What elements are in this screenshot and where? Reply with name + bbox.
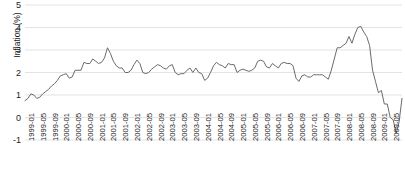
x-tick-label-text: 2000-09 xyxy=(87,113,95,141)
x-tick-label-text: 2003-05 xyxy=(181,113,189,141)
x-tick-label: 2001-05 xyxy=(110,113,118,141)
inflation-line-chart: Inflation (%) 543210-1 1999-011999-05199… xyxy=(0,0,405,190)
x-tick-label-text: 1999-09 xyxy=(52,113,60,141)
x-tick-label: 2009-01 xyxy=(381,113,389,141)
x-tick-label-text: 2005-01 xyxy=(240,113,248,141)
x-tick-label-text: 2008-09 xyxy=(370,113,378,141)
x-tick-label: 2007-01 xyxy=(311,113,319,141)
x-tick-label-text: 2006-09 xyxy=(299,113,307,141)
x-tick-label: 2004-01 xyxy=(205,113,213,141)
y-tick-label: 3 xyxy=(16,46,21,55)
x-axis-tick-labels: 1999-011999-051999-092000-012000-052000-… xyxy=(25,141,402,190)
x-tick-label: 2001-01 xyxy=(99,113,107,141)
x-tick-label-text: 2004-01 xyxy=(205,113,213,141)
x-tick-label-text: 2007-05 xyxy=(323,113,331,141)
x-tick-label: 2005-09 xyxy=(264,113,272,141)
x-tick-label-text: 2006-05 xyxy=(287,113,295,141)
x-tick-label: 1999-05 xyxy=(40,113,48,141)
x-tick-label: 2002-01 xyxy=(134,113,142,141)
x-tick-label-text: 2001-09 xyxy=(122,113,130,141)
x-tick-label-text: 2003-01 xyxy=(169,113,177,141)
x-tick-label-text: 2005-09 xyxy=(264,113,272,141)
x-tick-label: 2003-01 xyxy=(169,113,177,141)
x-tick-label: 2000-01 xyxy=(63,113,71,141)
x-tick-label-text: 2009-01 xyxy=(381,113,389,141)
y-tick-label: -1 xyxy=(13,136,21,145)
x-tick-label: 2004-05 xyxy=(217,113,225,141)
x-tick-label-text: 2009-05 xyxy=(393,113,401,141)
x-tick-label-text: 2007-09 xyxy=(334,113,342,141)
x-tick-label: 2007-09 xyxy=(334,113,342,141)
y-tick-label: 4 xyxy=(16,23,21,32)
x-tick-label: 2006-09 xyxy=(299,113,307,141)
x-tick-label-text: 2002-01 xyxy=(134,113,142,141)
x-tick-label-text: 2001-01 xyxy=(99,113,107,141)
x-tick-label-text: 2000-05 xyxy=(75,113,83,141)
x-tick-label: 2008-09 xyxy=(370,113,378,141)
y-tick-label: 5 xyxy=(16,1,21,10)
x-tick-label: 2005-01 xyxy=(240,113,248,141)
y-axis-tick-labels: 543210-1 xyxy=(0,0,24,145)
x-tick-label: 2000-09 xyxy=(87,113,95,141)
x-tick-label: 2000-05 xyxy=(75,113,83,141)
x-tick-label-text: 2001-05 xyxy=(110,113,118,141)
x-tick-label-text: 2002-09 xyxy=(158,113,166,141)
x-tick-label-text: 2008-05 xyxy=(358,113,366,141)
y-tick-label: 1 xyxy=(16,91,21,100)
x-tick-label-text: 2004-09 xyxy=(228,113,236,141)
x-tick-label-text: 1999-05 xyxy=(40,113,48,141)
x-tick-label-text: 2004-05 xyxy=(217,113,225,141)
x-tick-label: 2006-05 xyxy=(287,113,295,141)
x-tick-label-text: 2008-01 xyxy=(346,113,354,141)
x-tick-label: 2003-05 xyxy=(181,113,189,141)
x-tick-label: 2003-09 xyxy=(193,113,201,141)
y-tick-label: 2 xyxy=(16,68,21,77)
x-tick-label-text: 2006-01 xyxy=(275,113,283,141)
x-tick-label: 2005-05 xyxy=(252,113,260,141)
x-tick-label-text: 1999-01 xyxy=(28,113,36,141)
x-tick-label: 2002-09 xyxy=(158,113,166,141)
x-tick-label: 2007-05 xyxy=(323,113,331,141)
x-tick-label: 1999-09 xyxy=(52,113,60,141)
x-tick-label: 2004-09 xyxy=(228,113,236,141)
x-tick-label: 2006-01 xyxy=(275,113,283,141)
x-tick-label-text: 2007-01 xyxy=(311,113,319,141)
x-tick-label: 2008-01 xyxy=(346,113,354,141)
y-tick-label: 0 xyxy=(16,113,21,122)
x-tick-label: 2001-09 xyxy=(122,113,130,141)
x-tick-label: 2008-05 xyxy=(358,113,366,141)
x-tick-label-text: 2000-01 xyxy=(63,113,71,141)
x-tick-label-text: 2002-05 xyxy=(146,113,154,141)
x-tick-label-text: 2003-09 xyxy=(193,113,201,141)
x-tick-label: 2002-05 xyxy=(146,113,154,141)
x-tick-label: 2009-05 xyxy=(393,113,401,141)
x-tick-label: 1999-01 xyxy=(28,113,36,141)
x-tick-label-text: 2005-05 xyxy=(252,113,260,141)
